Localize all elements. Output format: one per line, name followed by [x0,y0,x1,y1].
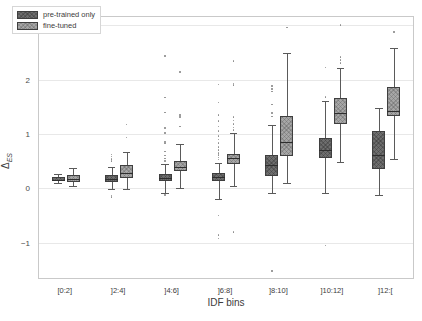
outlier-point [164,158,166,160]
box-iqr [319,138,332,159]
outlier-point [126,137,128,139]
outlier-point [218,139,220,141]
outlier-point [218,159,220,161]
median-line [120,173,133,174]
y-axis-label: ΔES [0,152,13,168]
outlier-point [218,238,220,240]
legend-item-fine-tuned[interactable]: fine-tuned [17,21,95,30]
whisker-cap-upper [390,48,398,49]
whisker-cap-lower [375,195,383,196]
whisker-cap-upper [176,144,184,145]
median-line [105,179,118,180]
outlier-point [233,84,235,86]
outlier-point [340,24,342,26]
outlier-point [218,84,220,86]
gridline [39,243,413,244]
median-line [67,179,80,180]
outlier-point [218,120,220,122]
box-iqr [334,98,347,124]
outlier-point [340,59,342,61]
x-axis-tick-label: ]12:[ [378,286,393,295]
whisker-cap-lower [69,186,77,187]
median-line [159,178,172,179]
median-line [334,113,347,114]
outlier-point [164,55,166,57]
outlier-point [233,60,235,62]
legend-label-fine-tuned: fine-tuned [43,21,76,30]
whisker-cap-lower [268,193,276,194]
whisker-cap-lower [230,186,238,187]
whisker-cap-lower [337,162,345,163]
outlier-point [111,196,113,198]
outlier-point [340,56,342,58]
outlier-point [218,142,220,144]
outlier-point [164,155,166,157]
y-axis-tick-label: 0 [0,184,30,193]
whisker-cap-lower [283,183,291,184]
x-axis-tick-label: ]10:12] [320,286,343,295]
whisker-cap-upper [108,167,116,168]
x-axis-label: IDF bins [38,297,414,308]
outlier-point [164,194,166,196]
gridline [39,188,413,189]
whisker-cap-upper [268,125,276,126]
outlier-point [218,149,220,151]
whisker-cap-upper [54,174,62,175]
boxplot-figure: ΔES −10123 [0:2]]2:4]]4:6]]6:8]]8:10]]10… [0,0,422,321]
outlier-point [233,123,235,125]
box-iqr [372,131,385,169]
whisker-cap-upper [375,108,383,109]
y-axis-label-symbol: Δ [0,162,11,169]
outlier-point [233,129,235,131]
outlier-point [325,67,327,69]
legend-item-pre-trained-only[interactable]: pre-trained only [17,10,95,19]
outlier-point [179,71,181,73]
x-axis-tick-label: ]6:8] [218,286,233,295]
outlier-point [164,151,166,153]
outlier-point [271,88,273,90]
box-iqr [280,116,293,156]
median-line [265,165,278,166]
outlier-point [111,160,113,162]
outlier-point [218,126,220,128]
outlier-point [271,116,273,118]
whisker-cap-upper [230,133,238,134]
median-line [319,150,332,151]
whisker-cap-upper [69,168,77,169]
whisker-cap-lower [54,183,62,184]
whisker-cap-lower [390,159,398,160]
outlier-point [271,112,273,114]
outlier-point [233,231,235,233]
outlier-point [218,157,220,159]
outlier-point [179,126,181,128]
outlier-point [271,270,273,272]
box-iqr [120,165,133,178]
legend[interactable]: pre-trained only fine-tuned [12,6,101,34]
whisker-cap-upper [337,68,345,69]
legend-label-pre-trained-only: pre-trained only [43,10,95,19]
outlier-point [271,85,273,87]
median-line [212,177,225,178]
outlier-point [218,102,220,104]
whisker-cap-lower [215,199,223,200]
outlier-point [218,234,220,236]
outlier-point [233,127,235,129]
outlier-point [233,116,235,118]
whisker-cap-lower [176,188,184,189]
outlier-point [164,127,166,129]
whisker-cap-lower [123,189,131,190]
outlier-point [164,97,166,99]
gridline [39,134,413,135]
median-line [387,111,400,112]
x-axis-tick-label: ]2:4] [111,286,126,295]
gridline [39,80,413,81]
outlier-point [126,124,128,126]
y-axis-tick-label: −1 [0,238,30,247]
outlier-point [179,116,181,118]
y-axis-tick-label: 2 [0,75,30,84]
outlier-point [233,120,235,122]
whisker-cap-upper [161,164,169,165]
outlier-point [271,91,273,93]
whisker-cap-upper [123,152,131,153]
x-axis-tick-label: [0:2] [57,286,72,295]
